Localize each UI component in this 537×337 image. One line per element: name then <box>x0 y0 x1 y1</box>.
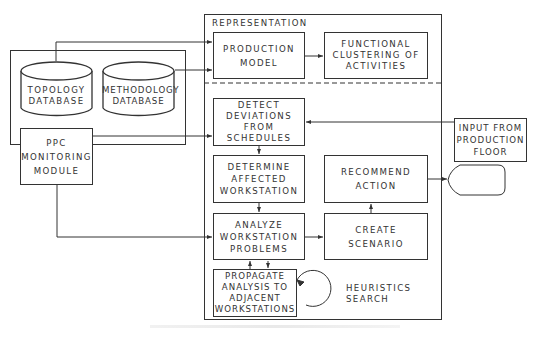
determine-workstation-box: DETERMINE AFFECTED WORKSTATION <box>213 155 305 203</box>
propagate-analysis-box: PROPAGATE ANALYSIS TO ADJACENT WORKSTATI… <box>213 269 297 317</box>
production-model-box: PRODUCTION MODEL <box>213 32 305 79</box>
determine-workstation-label: DETERMINE AFFECTED WORKSTATION <box>220 161 299 197</box>
ppc-monitoring-module: PPC MONITORING MODULE <box>20 128 93 185</box>
topology-database-label: TOPOLOGY DATABASE <box>20 85 93 107</box>
create-scenario-label: CREATE SCENARIO <box>348 223 404 251</box>
input-production-floor-box: INPUT FROM PRODUCTION FLOOR <box>454 118 527 162</box>
recommend-action-label: RECOMMEND ACTION <box>341 165 411 193</box>
detect-deviations-box: DETECT DEVIATIONS FROM SCHEDULES <box>213 98 305 146</box>
propagate-analysis-label: PROPAGATE ANALYSIS TO ADJACENT WORKSTATI… <box>215 271 296 315</box>
recommend-action-box: RECOMMEND ACTION <box>324 155 428 203</box>
methodology-database-label: METHODOLOGY DATABASE <box>102 85 175 107</box>
analyze-problems-label: ANALYZE WORKSTATION PROBLEMS <box>220 219 299 255</box>
flowchart-diagram: TOPOLOGY DATABASE METHODOLOGY DATABASE P… <box>0 0 537 337</box>
figure-caption <box>150 325 400 328</box>
topology-database: TOPOLOGY DATABASE <box>20 61 93 118</box>
heuristics-search-label: HEURISTICS SEARCH <box>346 283 411 305</box>
create-scenario-box: CREATE SCENARIO <box>324 213 428 260</box>
representation-title: REPRESENTATION <box>212 18 308 28</box>
functional-clustering-label: FUNCTIONAL CLUSTERING OF ACTIVITIES <box>332 39 419 72</box>
ppc-monitoring-module-label: PPC MONITORING MODULE <box>21 136 92 178</box>
production-model-label: PRODUCTION MODEL <box>223 42 295 70</box>
input-production-floor-label: INPUT FROM PRODUCTION FLOOR <box>457 122 525 158</box>
detect-deviations-label: DETECT DEVIATIONS FROM SCHEDULES <box>226 100 292 144</box>
analyze-problems-box: ANALYZE WORKSTATION PROBLEMS <box>213 213 305 260</box>
functional-clustering-box: FUNCTIONAL CLUSTERING OF ACTIVITIES <box>324 32 428 79</box>
methodology-database: METHODOLOGY DATABASE <box>102 61 175 118</box>
